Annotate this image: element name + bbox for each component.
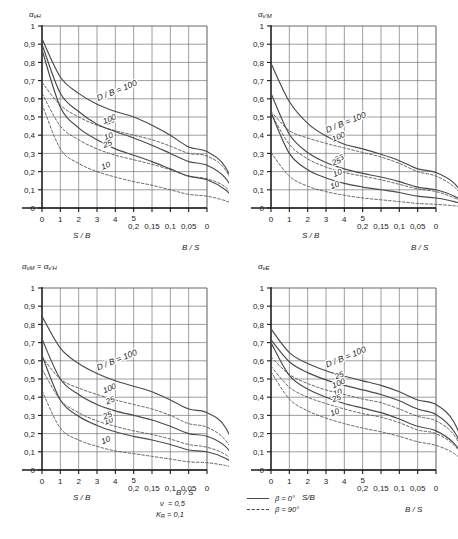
x-axis-label-left-1: S / B bbox=[302, 231, 319, 240]
svg-text:0: 0 bbox=[40, 215, 45, 224]
svg-text:0,1: 0,1 bbox=[165, 222, 177, 231]
svg-text:D / B = 100: D / B = 100 bbox=[324, 344, 368, 369]
svg-text:0,3: 0,3 bbox=[24, 150, 36, 159]
x-axis-label-right-2: B / S bbox=[176, 488, 193, 497]
svg-text:0,4: 0,4 bbox=[24, 393, 36, 402]
svg-text:25: 25 bbox=[104, 394, 117, 406]
svg-text:4: 4 bbox=[113, 477, 118, 486]
svg-text:10: 10 bbox=[100, 434, 112, 446]
svg-text:0: 0 bbox=[31, 204, 36, 213]
svg-text:0,5: 0,5 bbox=[24, 113, 36, 122]
svg-text:1: 1 bbox=[260, 284, 265, 293]
svg-text:0,15: 0,15 bbox=[373, 484, 389, 493]
y-axis-label-alpha-nu-E: ανE bbox=[258, 262, 270, 271]
chart-panel-alpha-nu-H: ανH 00,10,20,30,40,50,60,70,80,910123450… bbox=[0, 0, 229, 250]
chart-svg-alpha-nu-prime-M: 00,10,20,30,40,50,60,70,80,910123450,20,… bbox=[229, 0, 458, 250]
svg-text:0,2: 0,2 bbox=[24, 430, 36, 439]
legend-swatch-solid-icon bbox=[247, 498, 269, 499]
svg-text:0,3: 0,3 bbox=[24, 412, 36, 421]
legend-row-beta-90: β = 90° bbox=[247, 504, 299, 515]
svg-text:0,6: 0,6 bbox=[24, 95, 36, 104]
svg-text:4: 4 bbox=[342, 477, 347, 486]
svg-text:4: 4 bbox=[342, 215, 347, 224]
svg-text:10: 10 bbox=[329, 179, 341, 191]
chart-svg-alpha-nu-E: 00,10,20,30,40,50,60,70,80,910123450,20,… bbox=[229, 262, 458, 512]
svg-text:2: 2 bbox=[305, 477, 310, 486]
svg-text:0,3: 0,3 bbox=[253, 150, 265, 159]
svg-text:0,6: 0,6 bbox=[253, 357, 265, 366]
svg-text:1: 1 bbox=[58, 215, 63, 224]
svg-text:1: 1 bbox=[31, 22, 36, 31]
svg-text:2: 2 bbox=[76, 215, 81, 224]
svg-text:0,7: 0,7 bbox=[24, 77, 36, 86]
svg-text:0: 0 bbox=[269, 477, 274, 486]
x-axis-label-left-3: S/B bbox=[302, 493, 315, 502]
svg-text:0: 0 bbox=[434, 484, 439, 493]
x-axis-label-right-1: B / S bbox=[411, 243, 428, 252]
svg-text:0: 0 bbox=[434, 222, 439, 231]
svg-text:0,1: 0,1 bbox=[24, 186, 36, 195]
svg-text:10: 10 bbox=[329, 406, 341, 418]
svg-text:0,5: 0,5 bbox=[253, 375, 265, 384]
svg-text:0,15: 0,15 bbox=[144, 222, 160, 231]
legend-row-beta-0: β = 0° bbox=[247, 493, 299, 504]
svg-text:0,1: 0,1 bbox=[24, 448, 36, 457]
svg-text:0,1: 0,1 bbox=[165, 484, 177, 493]
chart-panel-alpha-nu-M: ανM = αν'H 00,10,20,30,40,50,60,70,80,91… bbox=[0, 262, 229, 512]
svg-text:0,1: 0,1 bbox=[394, 484, 406, 493]
svg-text:0,1: 0,1 bbox=[253, 186, 265, 195]
svg-text:0,4: 0,4 bbox=[24, 131, 36, 140]
svg-text:2: 2 bbox=[76, 477, 81, 486]
svg-text:D / B = 100: D / B = 100 bbox=[324, 109, 368, 134]
svg-text:0,2: 0,2 bbox=[128, 222, 140, 231]
svg-text:3: 3 bbox=[324, 215, 329, 224]
svg-text:0,7: 0,7 bbox=[253, 339, 265, 348]
legend-label-beta-0: β = 0° bbox=[275, 493, 295, 504]
legend-swatch-dashed-icon bbox=[247, 509, 269, 510]
svg-text:0,3: 0,3 bbox=[253, 412, 265, 421]
y-axis-label-alpha-nu-prime-M: αν'M bbox=[258, 10, 272, 19]
svg-text:0: 0 bbox=[269, 215, 274, 224]
svg-text:3: 3 bbox=[95, 215, 100, 224]
svg-text:0,5: 0,5 bbox=[24, 375, 36, 384]
svg-text:0,05: 0,05 bbox=[410, 222, 426, 231]
svg-text:0: 0 bbox=[260, 204, 265, 213]
svg-text:1: 1 bbox=[31, 284, 36, 293]
svg-text:0: 0 bbox=[205, 222, 210, 231]
svg-text:0,15: 0,15 bbox=[144, 484, 160, 493]
svg-text:1: 1 bbox=[58, 477, 63, 486]
svg-text:D / B = 100: D / B = 100 bbox=[95, 78, 139, 103]
parameter-nu: ν = 0,5 bbox=[160, 499, 185, 509]
svg-text:0,1: 0,1 bbox=[394, 222, 406, 231]
svg-text:0,2: 0,2 bbox=[253, 168, 265, 177]
y-axis-label-alpha-nu-H: ανH bbox=[29, 10, 41, 19]
chart-panel-alpha-nu-prime-M: αν'M 00,10,20,30,40,50,60,70,80,91012345… bbox=[229, 0, 458, 250]
svg-text:0,05: 0,05 bbox=[181, 222, 197, 231]
chart-svg-alpha-nu-M: 00,10,20,30,40,50,60,70,80,910123450,20,… bbox=[0, 262, 229, 512]
svg-text:0: 0 bbox=[260, 466, 265, 475]
svg-text:0,2: 0,2 bbox=[357, 222, 369, 231]
svg-text:0,2: 0,2 bbox=[24, 168, 36, 177]
svg-text:0,7: 0,7 bbox=[253, 77, 265, 86]
svg-text:0,2: 0,2 bbox=[253, 430, 265, 439]
x-axis-label-left-2: S / B bbox=[73, 493, 90, 502]
svg-text:0: 0 bbox=[31, 466, 36, 475]
svg-text:0,8: 0,8 bbox=[253, 59, 265, 68]
svg-text:0,1: 0,1 bbox=[253, 448, 265, 457]
svg-text:4: 4 bbox=[113, 215, 118, 224]
svg-text:0,9: 0,9 bbox=[253, 40, 265, 49]
figure-root: ανH 00,10,20,30,40,50,60,70,80,910123450… bbox=[0, 0, 458, 539]
svg-text:0: 0 bbox=[40, 477, 45, 486]
svg-text:0,15: 0,15 bbox=[373, 222, 389, 231]
svg-text:D / B = 100: D / B = 100 bbox=[95, 347, 139, 372]
svg-text:0,4: 0,4 bbox=[253, 131, 265, 140]
svg-text:3: 3 bbox=[95, 477, 100, 486]
svg-text:1: 1 bbox=[287, 477, 292, 486]
svg-text:1: 1 bbox=[260, 22, 265, 31]
svg-text:0,6: 0,6 bbox=[253, 95, 265, 104]
legend-label-beta-90: β = 90° bbox=[275, 504, 299, 515]
chart-panel-alpha-nu-E: ανE 00,10,20,30,40,50,60,70,80,910123450… bbox=[229, 262, 458, 512]
x-axis-label-left-0: S / B bbox=[73, 231, 90, 240]
chart-svg-alpha-nu-H: 00,10,20,30,40,50,60,70,80,910123450,20,… bbox=[0, 0, 229, 250]
x-axis-label-right-3: B / S bbox=[405, 505, 422, 514]
